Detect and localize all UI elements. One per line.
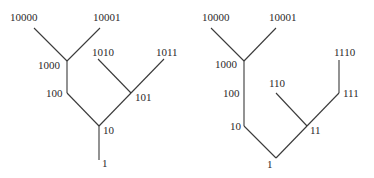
- node-label-10001: 10001: [269, 11, 297, 23]
- node-label-110: 110: [269, 77, 286, 89]
- node-label-10000: 10000: [10, 11, 38, 23]
- edge-11-111: [307, 93, 339, 126]
- node-label-10: 10: [230, 120, 242, 132]
- node-label-10001: 10001: [93, 11, 121, 23]
- node-label-1: 1: [102, 157, 108, 169]
- node-label-10: 10: [103, 124, 115, 136]
- edge-101-1011: [131, 59, 164, 93]
- edge-1-11: [276, 126, 307, 158]
- node-label-1011: 1011: [156, 46, 178, 58]
- node-label-10000: 10000: [202, 11, 230, 23]
- edge-10-101: [99, 93, 131, 126]
- node-label-1000: 1000: [215, 58, 238, 70]
- node-label-100: 100: [46, 87, 63, 99]
- tree-diagram-canvas: 1101001011000101010111000010001 11010010…: [0, 0, 374, 178]
- edge-10-100: [67, 93, 99, 126]
- node-label-1000: 1000: [38, 59, 61, 71]
- left-tree: 1101001011000101010111000010001: [10, 11, 178, 169]
- node-label-100: 100: [223, 87, 240, 99]
- node-label-101: 101: [135, 91, 152, 103]
- edge-11-110: [276, 93, 307, 126]
- node-label-111: 111: [343, 87, 359, 99]
- edge-1000-10001: [244, 28, 276, 61]
- edge-1000-10000: [34, 28, 67, 61]
- right-tree: 11010010001000010001111101111110: [202, 11, 359, 170]
- node-label-1110: 1110: [334, 46, 356, 58]
- node-label-1010: 1010: [92, 46, 115, 58]
- node-label-11: 11: [310, 124, 321, 136]
- edge-1-10: [244, 126, 276, 158]
- edge-101-1010: [98, 59, 131, 93]
- edge-1000-10000: [211, 28, 244, 61]
- node-label-1: 1: [267, 158, 273, 170]
